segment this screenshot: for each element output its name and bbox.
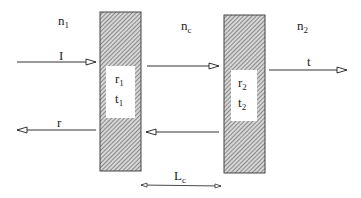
- cavity-length-label: Lc: [174, 169, 186, 185]
- reflected-beam-label: r: [57, 116, 61, 129]
- mirror-1-transmissivity-label: t1: [115, 92, 123, 108]
- medium-cavity-label: nc: [181, 19, 192, 35]
- mirror-2-transmissivity-label: t2: [238, 96, 246, 112]
- medium-left-label: n1: [58, 14, 69, 30]
- transmitted-beam-label: t: [307, 55, 311, 68]
- incident-beam-label: I: [59, 49, 63, 62]
- mirror-1-reflectivity-label: r1: [115, 72, 124, 88]
- mirror-2-reflectivity-label: r2: [238, 76, 247, 92]
- mirror-2: [224, 15, 265, 173]
- cavity-length-double-arrow-icon: [141, 185, 221, 186]
- medium-right-label: n2: [297, 19, 308, 35]
